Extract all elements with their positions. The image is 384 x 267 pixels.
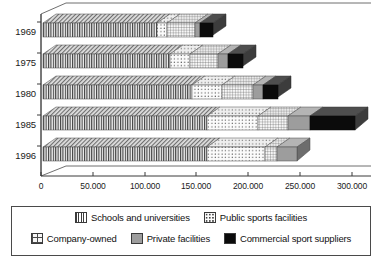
grid-swatch-icon: [31, 233, 43, 244]
bar-group-1996: [43, 138, 310, 161]
x-tick-label-3: 150.000: [181, 181, 211, 191]
x-tick-label-4: 200.000: [233, 181, 263, 191]
dotted-swatch-icon: [204, 212, 216, 223]
legend-row-2: Company-owned Private facilities Commerc…: [12, 233, 370, 244]
x-tick-label-6: 300.000: [337, 181, 367, 191]
legend-item-commercial-sport-suppliers[interactable]: Commercial sport suppliers: [224, 233, 351, 244]
category-label-1985: 1985: [4, 119, 36, 130]
chart-root: 1969 1975 1980 1985 1996 0 50.000 100.00…: [0, 0, 384, 267]
legend-item-company-owned[interactable]: Company-owned: [31, 233, 117, 244]
y-axis-ticks: [37, 14, 41, 176]
x-tick-label-5: 250.000: [285, 181, 315, 191]
black-swatch-icon: [224, 233, 236, 244]
vertical-stripe-swatch-icon: [75, 212, 87, 223]
legend-label-public-sports-facilities: Public sports facilities: [220, 212, 307, 223]
category-label-1996: 1996: [4, 150, 36, 161]
legend-item-public-sports-facilities[interactable]: Public sports facilities: [204, 212, 307, 223]
legend-label-company-owned: Company-owned: [47, 233, 117, 244]
x-tick-label-1: 50.000: [80, 181, 105, 191]
legend-item-private-facilities[interactable]: Private facilities: [131, 233, 210, 244]
x-axis-ticks: [41, 172, 352, 176]
gray-swatch-icon: [131, 233, 143, 244]
legend-label-commercial-sport-suppliers: Commercial sport suppliers: [240, 233, 351, 244]
legend-label-schools-and-universities: Schools and universities: [91, 212, 190, 223]
chart-legend: Schools and universities Public sports f…: [11, 206, 371, 256]
bar-group-1980: [43, 76, 291, 99]
category-label-1980: 1980: [4, 88, 36, 99]
category-label-1975: 1975: [4, 57, 36, 68]
x-tick-label-2: 100.000: [130, 181, 160, 191]
legend-item-schools-and-universities[interactable]: Schools and universities: [75, 212, 190, 223]
bar-group-1985: [43, 107, 368, 130]
bar-group-1969: [43, 14, 226, 37]
category-label-1969: 1969: [4, 26, 36, 37]
legend-row-1: Schools and universities Public sports f…: [12, 212, 370, 223]
x-tick-label-0: 0: [39, 181, 44, 191]
bar-group-1975: [43, 45, 256, 68]
legend-label-private-facilities: Private facilities: [147, 233, 210, 244]
